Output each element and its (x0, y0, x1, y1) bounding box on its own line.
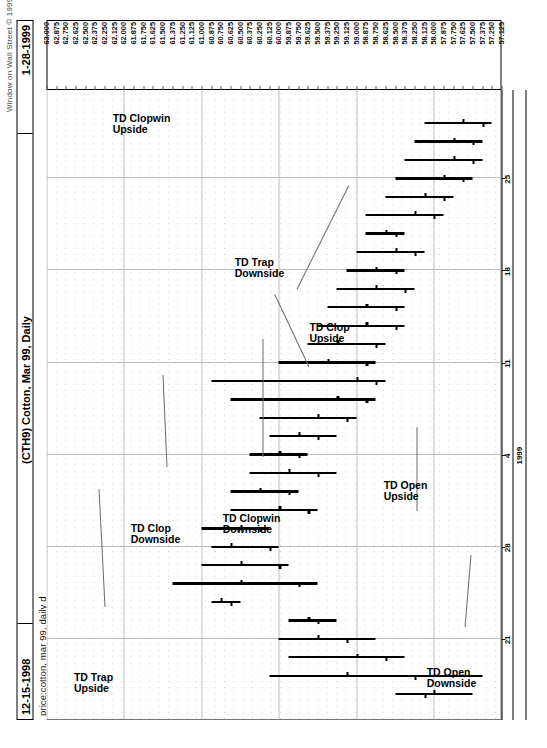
ohlc-close-tick (317, 635, 319, 638)
ohlc-high-low (395, 693, 472, 695)
annotation-td-trap-downside: TD TrapDownside (234, 257, 284, 279)
price-axis-label: 61.000 (197, 22, 204, 45)
ohlc-high-low (336, 288, 413, 290)
price-axis-label: 58.875 (362, 22, 369, 45)
price-axis-label: 57.125 (498, 22, 505, 45)
price-axis-label: 62.000 (120, 22, 127, 45)
ohlc-open-tick (278, 566, 280, 569)
ohlc-open-tick (269, 548, 271, 551)
price-axis-label: 62.250 (101, 22, 108, 45)
price-tick (462, 86, 463, 90)
price-axis-label: 60.375 (246, 22, 253, 45)
ohlc-open-tick (230, 603, 232, 606)
ohlc-close-tick (443, 175, 445, 178)
price-tick (395, 86, 396, 90)
price-tick (404, 86, 405, 90)
price-tick (327, 86, 328, 90)
ohlc-open-tick (385, 659, 387, 662)
ohlc-close-tick (230, 543, 232, 546)
ohlc-open-tick (365, 401, 367, 404)
ohlc-close-tick (346, 672, 348, 675)
ohlc-open-tick (365, 364, 367, 367)
ohlc-open-tick (472, 161, 474, 164)
price-tick (414, 86, 415, 90)
price-axis-label: 58.125 (420, 22, 427, 45)
price-tick (230, 86, 231, 90)
price-gridline (278, 90, 279, 719)
ohlc-open-tick (288, 493, 290, 496)
price-axis-label: 59.500 (314, 22, 321, 45)
ohlc-close-tick (433, 690, 435, 693)
ohlc-high-low (395, 177, 472, 179)
date-axis-label: 28 (502, 543, 511, 552)
ohlc-open-tick (414, 677, 416, 680)
price-tick (182, 86, 183, 90)
price-tick (424, 86, 425, 90)
price-axis-label: 62.500 (81, 22, 88, 45)
date-axis-line-3 (525, 90, 526, 720)
price-tick (259, 86, 260, 90)
price-axis-label: 60.750 (217, 22, 224, 45)
annotation-line-2: Downside (130, 534, 180, 545)
ohlc-close-tick (356, 377, 358, 380)
price-axis-label: 60.000 (275, 22, 282, 45)
price-axis-label: 57.250 (488, 22, 495, 45)
price-axis-label: 59.750 (294, 22, 301, 45)
price-tick (269, 86, 270, 90)
price-axis-label: 57.750 (449, 22, 456, 45)
price-tick (94, 86, 95, 90)
ohlc-close-tick (336, 396, 338, 399)
ohlc-close-tick (278, 451, 280, 454)
price-tick (172, 86, 173, 90)
price-axis-label: 62.625 (72, 22, 79, 45)
price-axis-label: 62.875 (52, 22, 59, 45)
ohlc-open-tick (395, 309, 397, 312)
price-axis-label: 59.875 (285, 22, 292, 45)
price-tick (307, 86, 308, 90)
ohlc-close-tick (298, 432, 300, 435)
ohlc-close-tick (365, 322, 367, 325)
price-axis-label: 58.375 (401, 22, 408, 45)
ohlc-close-tick (240, 561, 242, 564)
ohlc-open-tick (395, 235, 397, 238)
ohlc-high-low (365, 232, 404, 234)
annotation-td-clopwin-upside: TD ClopwinUpside (112, 113, 170, 135)
price-axis-label: 62.375 (91, 22, 98, 45)
price-tick (191, 86, 192, 90)
price-tick (249, 86, 250, 90)
ohlc-high-low (414, 140, 482, 142)
ohlc-high-low (230, 490, 298, 492)
ohlc-close-tick (462, 119, 464, 122)
price-tick (85, 86, 86, 90)
ohlc-close-tick (365, 304, 367, 307)
date-axis-label: 11 (502, 359, 511, 367)
price-axis-label: 59.625 (304, 22, 311, 45)
ohlc-open-tick (298, 456, 300, 459)
ohlc-close-tick (356, 654, 358, 657)
price-axis-label: 60.625 (226, 22, 233, 45)
ohlc-close-tick (395, 248, 397, 251)
ohlc-open-tick (395, 327, 397, 330)
ohlc-close-tick (240, 580, 242, 583)
price-axis-label: 57.625 (459, 22, 466, 45)
ohlc-close-tick (259, 488, 261, 491)
ohlc-high-low (211, 601, 240, 603)
price-plot-area[interactable]: TD TrapUpsideTD ClopDownsideTD ClopwinUp… (46, 90, 501, 720)
date-axis-line-1 (501, 90, 502, 720)
ohlc-open-tick (317, 622, 319, 625)
ohlc-open-tick (472, 143, 474, 146)
price-tick (114, 86, 115, 90)
ohlc-high-low (172, 582, 317, 584)
ohlc-open-tick (346, 640, 348, 643)
price-axis-label: 63.000 (43, 22, 50, 45)
annotation-leader-line (262, 339, 263, 457)
price-axis-label: 60.875 (207, 22, 214, 45)
price-gridline (356, 90, 357, 719)
price-axis-label: 58.250 (410, 22, 417, 45)
ohlc-open-tick (443, 198, 445, 201)
price-axis-label: 61.250 (178, 22, 185, 45)
ohlc-high-low (230, 509, 317, 511)
ohlc-close-tick (317, 414, 319, 417)
price-tick (472, 86, 473, 90)
ohlc-open-tick (307, 511, 309, 514)
